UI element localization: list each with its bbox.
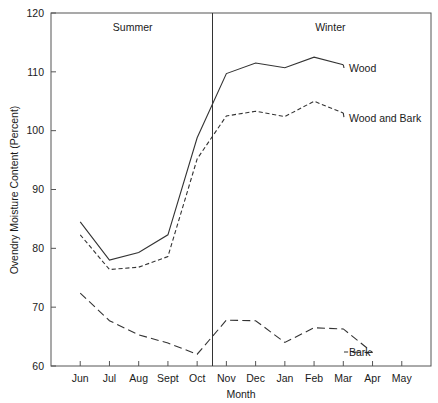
series-line-bark	[80, 293, 372, 354]
summer-season-label: Summer	[113, 21, 153, 33]
leader-line-wood	[343, 65, 344, 68]
x-tick-label: Nov	[217, 372, 236, 384]
y-axis-ticks	[51, 13, 56, 366]
x-tick-label: Jun	[72, 372, 89, 384]
y-axis-tick-labels: 60708090100110120	[26, 7, 44, 372]
x-tick-label: Mar	[334, 372, 353, 384]
x-tick-label: Feb	[305, 372, 323, 384]
y-tick-label: 120	[26, 7, 44, 19]
y-tick-label: 110	[27, 66, 44, 78]
chart-container: 60708090100110120 JunJulAugSeptOctNovDec…	[0, 0, 438, 403]
x-axis-tick-labels: JunJulAugSeptOctNovDecJanFebMarAprMay	[72, 372, 413, 384]
x-axis-title: Month	[226, 388, 255, 400]
y-tick-label: 60	[32, 360, 44, 372]
series-label-bark: Bark	[349, 346, 371, 358]
x-tick-label: Dec	[246, 372, 265, 384]
series-label-wood: Wood	[349, 62, 376, 74]
x-tick-label: Apr	[364, 372, 381, 384]
x-tick-label: Sept	[157, 372, 179, 384]
x-tick-label: Jul	[103, 372, 116, 384]
y-axis-title: Ovendry Moisture Content (Percent)	[8, 106, 20, 275]
series-line-wood	[80, 57, 343, 260]
x-tick-label: Jan	[276, 372, 293, 384]
y-tick-label: 70	[32, 301, 44, 313]
y-tick-label: 100	[26, 124, 44, 136]
y-tick-label: 80	[32, 242, 44, 254]
x-tick-label: Oct	[189, 372, 205, 384]
series-label-wood-and-bark: Wood and Bark	[349, 112, 422, 124]
line-chart: 60708090100110120 JunJulAugSeptOctNovDec…	[0, 0, 438, 403]
x-axis-ticks	[80, 361, 402, 366]
leader-line-wood-and-bark	[343, 113, 344, 118]
series-line-wood-and-bark	[80, 101, 343, 269]
y-tick-label: 90	[32, 183, 44, 195]
x-tick-label: May	[392, 372, 413, 384]
x-tick-label: Aug	[129, 372, 148, 384]
winter-season-label: Winter	[315, 21, 346, 33]
